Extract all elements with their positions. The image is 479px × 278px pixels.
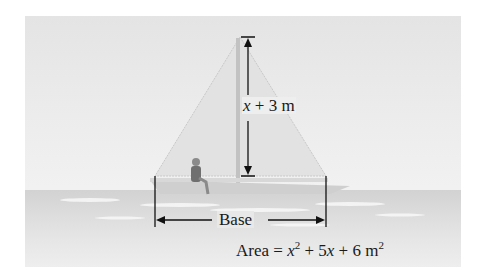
base-label: Base: [217, 211, 254, 228]
sail-triangle: [155, 37, 326, 176]
sailboat-drawing: [25, 16, 461, 267]
height-label: x + 3 m: [242, 97, 296, 114]
boat-hull: [150, 180, 350, 194]
sailboat-figure: [25, 16, 461, 267]
mast: [236, 38, 240, 188]
area-label: Area = x2 + 5x + 6 m2: [236, 242, 384, 259]
